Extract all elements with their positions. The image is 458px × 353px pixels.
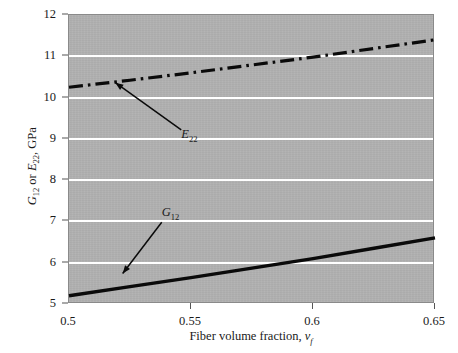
y-axis-title-e: E bbox=[25, 163, 39, 171]
x-axis-title: Fiber volume fraction, vf bbox=[68, 329, 434, 346]
chart-figure: E22 G12 56789101112 G12 or E22, GPa 0.50… bbox=[0, 0, 458, 353]
x-tick-label-0.55: 0.55 bbox=[179, 314, 201, 329]
y-tick-mark-8 bbox=[62, 179, 68, 180]
y-tick-mark-7 bbox=[62, 220, 68, 221]
annotation-label-g12: G12 bbox=[162, 205, 180, 222]
annotation-g12-subscript: 12 bbox=[171, 212, 180, 222]
x-tick-mark-0.6 bbox=[312, 303, 313, 309]
annotation-arrows bbox=[115, 83, 181, 274]
y-tick-mark-9 bbox=[62, 137, 68, 138]
y-tick-mark-11 bbox=[62, 55, 68, 56]
x-tick-mark-0.55 bbox=[190, 303, 191, 309]
series-line-e22 bbox=[69, 40, 435, 87]
y-tick-mark-12 bbox=[62, 14, 68, 15]
x-tick-mark-0.65 bbox=[434, 303, 435, 309]
y-axis-title-e-sub: 22 bbox=[31, 155, 41, 164]
annotation-arrow-head-0 bbox=[115, 83, 123, 90]
x-axis-title-subscript: f bbox=[310, 336, 312, 346]
x-axis: 0.50.550.60.65 bbox=[0, 303, 458, 329]
y-tick-mark-6 bbox=[62, 261, 68, 262]
annotation-e22-symbol: E bbox=[181, 127, 189, 141]
y-tick-label-11: 11 bbox=[44, 48, 56, 63]
y-tick-label-6: 6 bbox=[50, 254, 56, 269]
annotation-arrow-line-1 bbox=[123, 222, 162, 273]
y-axis-title: G12 or E22, GPa bbox=[25, 86, 42, 246]
x-axis-title-text: Fiber volume fraction, bbox=[189, 329, 304, 343]
y-axis-title-unit: , GPa bbox=[25, 127, 39, 155]
y-axis-title-conj: or bbox=[25, 171, 39, 188]
annotation-arrow-line-0 bbox=[115, 83, 181, 130]
y-tick-label-7: 7 bbox=[50, 213, 56, 228]
plot-area bbox=[68, 14, 434, 303]
annotation-label-e22: E22 bbox=[181, 127, 197, 144]
x-tick-label-0.65: 0.65 bbox=[423, 314, 445, 329]
y-tick-label-10: 10 bbox=[44, 89, 57, 104]
annotation-e22-subscript: 22 bbox=[189, 133, 198, 143]
x-tick-label-0.6: 0.6 bbox=[304, 314, 320, 329]
y-tick-label-8: 8 bbox=[50, 172, 56, 187]
x-tick-label-0.5: 0.5 bbox=[60, 314, 76, 329]
y-tick-label-9: 9 bbox=[50, 130, 56, 145]
y-axis-title-g: G bbox=[25, 196, 39, 205]
y-axis-title-g-sub: 12 bbox=[31, 188, 41, 197]
y-tick-label-12: 12 bbox=[44, 7, 57, 22]
annotation-g12-symbol: G bbox=[162, 205, 171, 219]
series-line-g12 bbox=[69, 238, 435, 296]
y-tick-mark-10 bbox=[62, 96, 68, 97]
data-curves bbox=[69, 15, 435, 304]
